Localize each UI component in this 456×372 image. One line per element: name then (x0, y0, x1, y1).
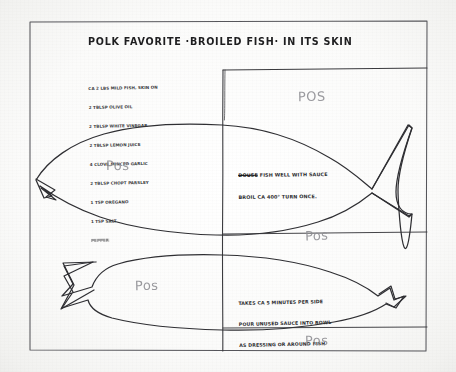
scanned-recipe-card: POLK FAVORITE ·BROILED FISH· IN ITS SKIN… (0, 0, 456, 372)
pencil-mark-pos-1: POS (298, 89, 326, 104)
pencil-mark-pos-4: Pos (135, 278, 159, 294)
broil-note-line-2: BROIL CA 400° TURN ONCE. (238, 193, 328, 201)
broil-note-line-1: DOUSE FISH WELL WITH SAUCE (238, 171, 328, 179)
pencil-mark-pos-2: Pos (106, 158, 129, 173)
ingredient-item-smudged: PEPPER (91, 237, 161, 245)
ingredient-item: 1 TSP OREGANO (90, 199, 160, 207)
upper-fish-tail (372, 125, 412, 217)
broil-note: DOUSE FISH WELL WITH SAUCE BROIL CA 400°… (238, 156, 328, 216)
ingredient-item: 2 TBLSP LEMON JUICE (89, 141, 159, 149)
vertical-fold-line (222, 70, 223, 351)
ingredient-item: 2 TBLSP WHITE VINEGAR (89, 122, 159, 130)
ingredient-item: 2 TBLSP OLIVE OIL (89, 103, 159, 111)
ingredient-item: CA 2 LBS MILD FISH, SKIN ON (88, 84, 158, 92)
timing-note-line-1: TAKES CA 5 MINUTES PER SIDE (238, 298, 331, 307)
hand-drawn-artwork (0, 0, 456, 372)
ingredient-item: 2 TBLSP CHOPT PARSLEY (90, 179, 160, 187)
pencil-mark-pos-5: Pos (305, 333, 329, 348)
pencil-mark-pos-3: Pos (305, 228, 329, 244)
timing-note-line-2: POUR UNUSED SAUCE INTO BOWL (239, 319, 332, 328)
upper-horizontal-fold-line (223, 68, 427, 70)
ingredient-item: 1 TSP SALT (91, 218, 161, 226)
vertical-fold-line-doubled (224, 70, 225, 120)
broil-note-text: FISH WELL WITH SAUCE (258, 171, 328, 178)
struck-word: DOUSE (238, 172, 258, 178)
timing-note: TAKES CA 5 MINUTES PER SIDE POUR UNUSED … (238, 284, 332, 363)
page-title: POLK FAVORITE ·BROILED FISH· IN ITS SKIN (88, 35, 352, 47)
lower-fish-outline (62, 255, 404, 330)
